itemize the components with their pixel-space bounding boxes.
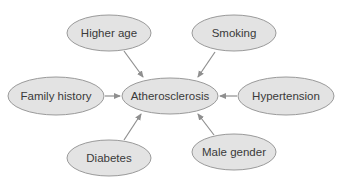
node-diabetes: Diabetes <box>67 140 151 176</box>
node-male-gender: Male gender <box>192 134 276 170</box>
node-atherosclerosis: Atherosclerosis <box>122 78 218 114</box>
node-smoking: Smoking <box>192 15 276 51</box>
edge-diabetes-to-atherosclerosis <box>124 114 141 140</box>
node-label: Family history <box>21 90 92 102</box>
node-label: Atherosclerosis <box>131 90 210 102</box>
node-hypertension: Hypertension <box>238 77 334 115</box>
edge-higher-age-to-atherosclerosis <box>124 51 143 77</box>
node-family-history: Family history <box>8 77 104 115</box>
edge-male-gender-to-atherosclerosis <box>198 114 214 135</box>
node-label: Higher age <box>81 27 137 39</box>
node-higher-age: Higher age <box>67 15 151 51</box>
node-label: Smoking <box>212 27 257 39</box>
node-label: Male gender <box>202 146 266 158</box>
node-label: Diabetes <box>86 152 132 164</box>
atherosclerosis-risk-diagram: Higher age Smoking Family history Athero… <box>0 0 338 177</box>
edge-smoking-to-atherosclerosis <box>198 52 215 77</box>
node-label: Hypertension <box>252 90 320 102</box>
